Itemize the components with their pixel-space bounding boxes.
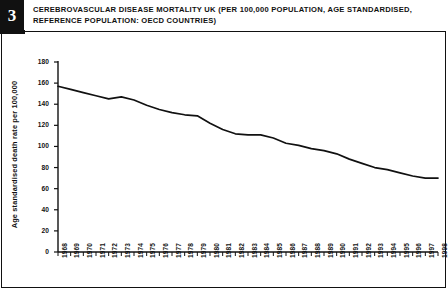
- data-series-line: [58, 86, 438, 178]
- line-chart: Age standardised death rate per 100,000 …: [0, 0, 448, 290]
- plot-svg: [0, 0, 448, 290]
- chart-page: 3 CEREBROVASCULAR DISEASE MORTALITY UK (…: [0, 0, 448, 290]
- axes-group: [54, 61, 438, 256]
